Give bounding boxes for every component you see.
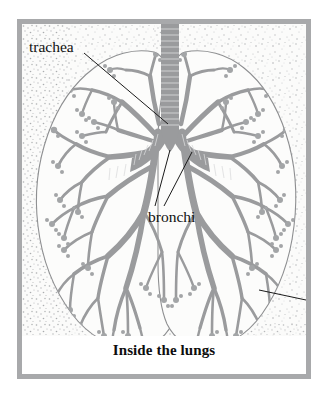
figure-frame: trachea bronchi Inside the lungs bbox=[17, 19, 311, 379]
label-trachea: trachea bbox=[29, 39, 74, 55]
figure-caption: Inside the lungs bbox=[22, 342, 306, 359]
figure-root: trachea bronchi Inside the lungs bbox=[0, 0, 336, 400]
figure-plate: trachea bronchi Inside the lungs bbox=[22, 24, 306, 374]
caption-band: Inside the lungs bbox=[22, 336, 306, 374]
lung-diagram-illustration bbox=[22, 24, 306, 374]
label-bronchi: bronchi bbox=[148, 209, 195, 225]
